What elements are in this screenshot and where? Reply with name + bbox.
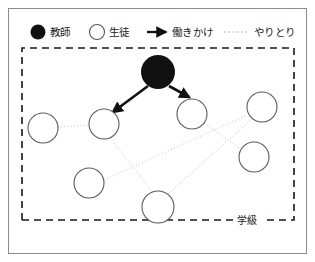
legend-label-influence: 働きかけ xyxy=(172,26,214,38)
diagram-figure: 教師 生徒 働きかけ やりとり 学級 xyxy=(0,0,315,262)
legend-label-student: 生徒 xyxy=(109,26,130,38)
legend-label-interaction: やりとり xyxy=(254,26,296,38)
student-node xyxy=(89,109,119,139)
legend-item-student: 生徒 xyxy=(90,25,131,40)
student-node xyxy=(247,92,277,122)
student-node xyxy=(74,168,104,198)
legend-item-teacher: 教師 xyxy=(31,25,72,40)
student-node xyxy=(177,99,207,129)
diagram-canvas: 教師 生徒 働きかけ やりとり 学級 xyxy=(0,0,315,262)
filled-circle-icon xyxy=(31,25,46,40)
student-node xyxy=(142,191,174,223)
legend-label-teacher: 教師 xyxy=(50,26,71,38)
student-node xyxy=(28,113,58,143)
classroom-label: 学級 xyxy=(237,214,258,226)
open-circle-icon xyxy=(90,25,105,40)
teacher-nodes xyxy=(141,55,175,89)
teacher-node xyxy=(141,55,175,89)
student-node xyxy=(239,142,269,172)
